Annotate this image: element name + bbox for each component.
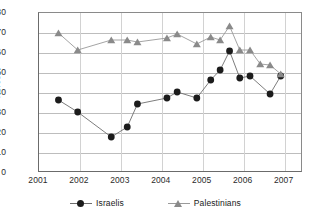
circle-marker-icon: [70, 198, 92, 208]
x-axis-tick-label: 2004: [141, 176, 181, 185]
y-axis-tick-label: 70: [0, 28, 6, 37]
gridline-vertical: [80, 13, 81, 171]
x-axis-tick-label: 2005: [182, 176, 222, 185]
gridline-horizontal: [39, 113, 301, 114]
gridline-vertical: [162, 13, 163, 171]
x-axis-tick-label: 2002: [59, 176, 99, 185]
gridline-horizontal: [39, 93, 301, 94]
legend-item-palestinians[interactable]: Palestinians: [168, 198, 241, 208]
legend-item-israelis[interactable]: Israelis: [70, 198, 124, 208]
line-chart: Percent 01020304050607080200120022003200…: [0, 0, 311, 222]
legend-label-israelis: Israelis: [96, 199, 124, 208]
y-axis-tick-label: 60: [0, 48, 6, 57]
y-axis-tick-label: 40: [0, 88, 6, 97]
gridline-vertical: [203, 13, 204, 171]
y-axis-tick-label: 0: [0, 168, 6, 177]
y-axis-tick-label: 80: [0, 8, 6, 17]
x-axis-tick-label: 2007: [264, 176, 304, 185]
gridline-horizontal: [39, 33, 301, 34]
x-axis-tick-label: 2001: [18, 176, 58, 185]
x-axis-tick-label: 2003: [100, 176, 140, 185]
gridline-vertical: [121, 13, 122, 171]
plot-area: [38, 12, 302, 172]
y-axis-tick-label: 10: [0, 148, 6, 157]
y-axis-tick-label: 30: [0, 108, 6, 117]
chart-legend: Israelis Palestinians: [0, 198, 311, 208]
x-axis-tick-label: 2006: [223, 176, 263, 185]
triangle-marker-icon: [168, 198, 190, 208]
gridline-vertical: [244, 13, 245, 171]
gridline-horizontal: [39, 153, 301, 154]
gridline-horizontal: [39, 53, 301, 54]
gridline-horizontal: [39, 133, 301, 134]
gridline-vertical: [285, 13, 286, 171]
y-axis-tick-label: 50: [0, 68, 6, 77]
y-axis-tick-label: 20: [0, 128, 6, 137]
gridline-horizontal: [39, 73, 301, 74]
legend-label-palestinians: Palestinians: [194, 199, 241, 208]
